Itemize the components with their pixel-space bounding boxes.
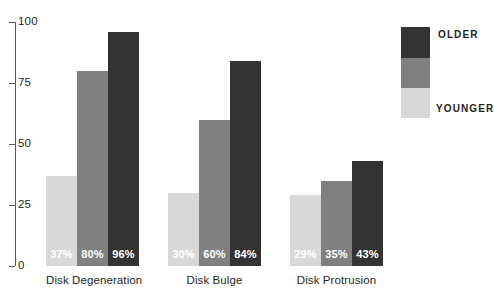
bar-value-label: 84%: [230, 248, 261, 260]
bar-value-label: 30%: [168, 248, 199, 260]
legend-swatch-middle: [401, 58, 430, 88]
bar: 43%: [352, 161, 383, 266]
x-axis-group-label: Disk Degeneration: [46, 274, 139, 286]
bar-value-label: 29%: [290, 248, 321, 260]
legend-swatch-older: [401, 27, 430, 58]
bar-value-label: 37%: [46, 248, 77, 260]
bar-chart: 1007550250 37%80%96%Disk Degeneration30%…: [0, 0, 495, 294]
bar: 96%: [108, 32, 139, 266]
bar-value-label: 43%: [352, 248, 383, 260]
legend-swatch-younger: [401, 88, 430, 118]
bar: 84%: [230, 61, 261, 266]
legend-label-older: OLDER: [438, 29, 479, 40]
bar: 37%: [46, 176, 77, 266]
bar-value-label: 35%: [321, 248, 352, 260]
bar: 60%: [199, 120, 230, 266]
x-axis-group-label: Disk Protrusion: [290, 274, 383, 286]
x-axis-group-label: Disk Bulge: [168, 274, 261, 286]
bar: 30%: [168, 193, 199, 266]
bar: 80%: [77, 71, 108, 266]
legend: [401, 27, 430, 118]
bar: 35%: [321, 181, 352, 266]
bar-value-label: 96%: [108, 248, 139, 260]
bar-value-label: 80%: [77, 248, 108, 260]
bar: 29%: [290, 195, 321, 266]
legend-label-younger: YOUNGER: [436, 103, 494, 114]
bar-value-label: 60%: [199, 248, 230, 260]
